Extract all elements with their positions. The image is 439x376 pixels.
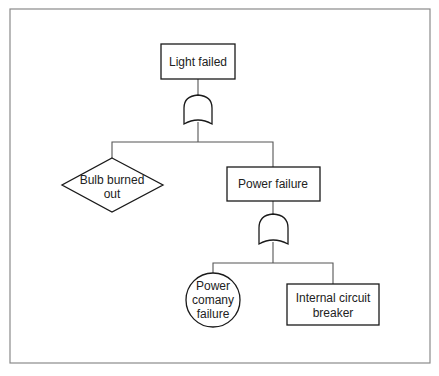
node-label-line-2: out (104, 187, 121, 201)
node-label-line-1: Power (196, 279, 230, 293)
node-label: Power failure (238, 177, 308, 191)
node-label-line-1: Internal circuit (296, 291, 371, 305)
node-label: Light failed (169, 55, 227, 69)
node-label-line-1: Bulb burned (80, 173, 145, 187)
or-gate-icon (259, 214, 288, 244)
node-power-failure: Power failure (227, 167, 320, 201)
connector-gate1-branches (112, 142, 273, 167)
node-bulb-burned-out: Bulb burned out (62, 158, 163, 212)
node-internal-circuit-breaker: Internal circuit breaker (287, 284, 379, 325)
node-label-line-2: comany (192, 293, 234, 307)
fault-tree-diagram: Light failed Bulb burned out Power failu… (0, 0, 439, 376)
node-label-line-2: breaker (313, 306, 354, 320)
or-gate-icon (184, 95, 212, 124)
node-label-line-3: failure (197, 307, 230, 321)
node-power-company-failure: Power comany failure (186, 273, 240, 327)
node-light-failed: Light failed (161, 44, 235, 79)
